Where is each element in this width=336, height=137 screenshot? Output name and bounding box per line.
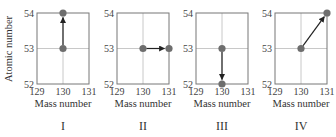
data-point [218,45,225,52]
data-point [59,9,66,16]
panel-II: 525354129130131Mass numberII [104,8,177,134]
x-tick-label: 131 [320,86,335,97]
panel-IV: 525354129130131Mass numberIV [262,8,335,134]
x-tick-label: 130 [294,86,309,97]
y-axis-label: Atomic number [3,15,14,82]
data-point [297,45,304,52]
y-tick-label: 53 [24,43,34,54]
panel-label: II [139,119,147,133]
data-point [165,45,172,52]
x-tick-label: 129 [268,86,283,97]
panel-I: 525354129130131Mass numberI [24,8,97,134]
x-tick-label: 131 [162,86,177,97]
x-tick-label: 131 [82,86,97,97]
x-tick-label: 130 [56,86,71,97]
panel-label: III [216,119,228,133]
y-tick-label: 54 [104,8,114,19]
nuclear-decay-charts: Atomic number 525354129130131Mass number… [0,0,336,137]
data-point [139,45,146,52]
y-tick-label: 54 [24,8,34,19]
decay-arrow [303,17,324,46]
x-axis-label: Mass number [273,98,330,109]
y-tick-label: 53 [104,43,114,54]
data-point [323,9,330,16]
x-tick-label: 129 [110,86,125,97]
y-tick-label: 54 [183,8,193,19]
data-point [218,80,225,87]
x-tick-label: 130 [136,86,151,97]
x-tick-label: 130 [215,86,230,97]
panel-III: 525354129130131Mass numberIII [183,8,256,134]
x-axis-label: Mass number [115,98,172,109]
y-tick-label: 53 [262,43,272,54]
y-tick-label: 53 [183,43,193,54]
y-tick-label: 54 [262,8,272,19]
panel-label: I [61,119,65,133]
x-tick-label: 131 [241,86,256,97]
x-tick-label: 129 [189,86,204,97]
x-tick-label: 129 [30,86,45,97]
x-axis-label: Mass number [194,98,251,109]
x-axis-label: Mass number [35,98,92,109]
panel-label: IV [295,119,308,133]
data-point [59,45,66,52]
